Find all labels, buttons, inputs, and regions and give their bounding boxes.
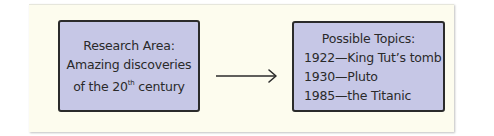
research-area-line-2: of the 20th century <box>73 74 185 96</box>
possible-topics-box: Possible Topics: 1922—King Tut’s tomb 19… <box>292 21 445 112</box>
research-area-title: Research Area: <box>83 36 175 55</box>
research-area-line-1: Amazing discoveries <box>67 55 192 74</box>
topic-item: 1930—Pluto <box>304 67 443 86</box>
research-area-box: Research Area: Amazing discoveries of th… <box>58 20 200 112</box>
right-arrow-icon <box>215 68 279 84</box>
topic-item: 1922—King Tut’s tomb <box>304 48 443 67</box>
possible-topics-title: Possible Topics: <box>304 29 443 48</box>
topic-item: 1985—the Titanic <box>304 86 443 105</box>
